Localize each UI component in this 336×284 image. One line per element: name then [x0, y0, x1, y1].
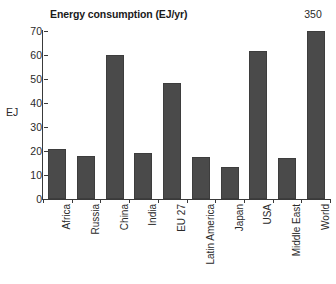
y-tick-label: 70	[30, 25, 42, 37]
x-axis-label-text: Latin America	[205, 204, 216, 265]
x-tick-mark	[187, 199, 188, 203]
y-tick: 70	[30, 25, 43, 37]
x-tick-mark	[273, 199, 274, 203]
x-tick-mark	[129, 199, 130, 203]
y-tick-label: 40	[30, 97, 42, 109]
bar	[278, 158, 296, 199]
y-tick: 20	[30, 145, 43, 157]
plot-area: 010203040506070	[43, 31, 330, 199]
x-tick-mark	[330, 199, 331, 203]
y-tick-label: 60	[30, 49, 42, 61]
x-axis-label-text: EU 27	[176, 204, 187, 232]
bar	[77, 156, 95, 199]
y-tick: 40	[30, 97, 43, 109]
x-tick-mark	[72, 199, 73, 203]
x-tick-mark	[158, 199, 159, 203]
y-tick-label: 0	[36, 193, 42, 205]
x-axis-label-text: World	[320, 204, 331, 230]
y-tick-label: 30	[30, 121, 42, 133]
bar	[249, 51, 267, 199]
bar	[192, 157, 210, 199]
x-tick-mark	[43, 199, 44, 203]
x-axis-label-text: Middle East	[291, 204, 302, 256]
x-axis-label-text: USA	[262, 204, 273, 225]
bar-chart-figure: Energy consumption (EJ/yr) 350 EJ 010203…	[0, 0, 336, 284]
x-tick-mark	[301, 199, 302, 203]
x-axis-label-text: China	[119, 204, 130, 230]
y-tick-label: 50	[30, 73, 42, 85]
y-tick-label: 10	[30, 169, 42, 181]
x-axis-label-text: Russia	[90, 204, 101, 235]
y-tick: 60	[30, 49, 43, 61]
x-axis-label-text: Japan	[234, 204, 245, 231]
bar	[307, 31, 325, 199]
x-axis-label-text: Africa	[61, 204, 72, 230]
bars-layer	[43, 31, 330, 199]
x-tick-mark	[244, 199, 245, 203]
bar	[163, 83, 181, 199]
x-axis-label-text: India	[147, 204, 158, 226]
x-tick-mark	[215, 199, 216, 203]
world-bar-value-annotation: 350	[294, 8, 332, 20]
y-tick: 10	[30, 169, 43, 181]
bar	[134, 153, 152, 199]
y-axis-title: EJ	[6, 106, 18, 118]
bar	[48, 149, 66, 199]
y-tick: 50	[30, 73, 43, 85]
x-tick-mark	[100, 199, 101, 203]
y-tick: 0	[36, 193, 43, 205]
y-tick: 30	[30, 121, 43, 133]
bar	[221, 167, 239, 199]
y-tick-label: 20	[30, 145, 42, 157]
bar	[106, 55, 124, 199]
chart-title: Energy consumption (EJ/yr)	[50, 8, 187, 20]
